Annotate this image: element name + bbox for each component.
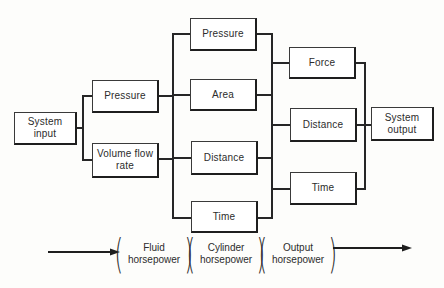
connector-line	[82, 95, 84, 161]
node-label: Pressure	[104, 90, 146, 102]
output-arrow-icon	[332, 242, 414, 254]
node-pressure-2: Pressure	[190, 18, 257, 51]
legend-label: horsepower	[272, 254, 324, 266]
connector-line	[172, 33, 174, 218]
legend-fluid-horsepower: ( Fluid horsepower )	[114, 234, 194, 274]
legend-label: Output	[283, 242, 313, 254]
connector-line	[271, 33, 273, 219]
connector-line	[271, 124, 290, 126]
connector-line	[172, 217, 191, 219]
connector-line	[257, 217, 272, 219]
legend-label: Fluid	[143, 242, 165, 254]
node-label: System	[28, 116, 63, 128]
node-time-2: Time	[290, 172, 357, 205]
node-time-1: Time	[191, 201, 258, 233]
legend-output-horsepower: ( Output horsepower )	[258, 234, 338, 274]
legend-label: horsepower	[200, 254, 252, 266]
connector-line	[271, 188, 290, 190]
node-label: Time	[213, 211, 236, 223]
connector-line	[158, 95, 173, 97]
node-label: Distance	[204, 152, 245, 164]
input-arrow-icon	[46, 246, 122, 258]
connector-line	[172, 157, 191, 159]
connector-line	[256, 94, 272, 96]
open-paren-icon: (	[187, 234, 196, 274]
node-label: Area	[212, 89, 234, 101]
node-label: Distance	[303, 119, 344, 131]
node-distance-1: Distance	[191, 141, 258, 175]
node-area: Area	[190, 79, 257, 111]
block-diagram: System input Pressure Volume flow rate P…	[0, 0, 444, 288]
connector-line	[82, 95, 92, 97]
node-label: rate	[97, 160, 153, 172]
node-volume-flow-rate: Volume flow rate	[92, 143, 159, 178]
connector-line	[82, 159, 92, 161]
node-label: Force	[309, 57, 336, 69]
legend-label: Cylinder	[208, 242, 245, 254]
close-paren-icon: )	[329, 234, 338, 274]
node-label: Volume flow	[97, 148, 153, 160]
node-pressure-1: Pressure	[92, 80, 159, 113]
connector-line	[364, 62, 366, 190]
node-label: Time	[312, 182, 335, 194]
node-system-output: System output	[371, 107, 434, 141]
open-paren-icon: (	[115, 234, 124, 274]
node-label: output	[385, 124, 420, 136]
connector-line	[271, 62, 289, 64]
connector-line	[172, 94, 190, 96]
node-label: System	[385, 112, 420, 124]
legend-label: horsepower	[128, 254, 180, 266]
node-label: input	[28, 128, 63, 140]
connector-line	[257, 157, 272, 159]
connector-line	[158, 158, 173, 160]
node-label: Pressure	[202, 28, 244, 40]
node-system-input: System input	[14, 112, 77, 145]
open-paren-icon: (	[259, 234, 268, 274]
connector-line	[256, 33, 272, 35]
legend-cylinder-horsepower: ( Cylinder horsepower )	[186, 234, 266, 274]
node-force: Force	[289, 47, 356, 79]
node-distance-2: Distance	[290, 108, 357, 142]
connector-line	[172, 33, 190, 35]
